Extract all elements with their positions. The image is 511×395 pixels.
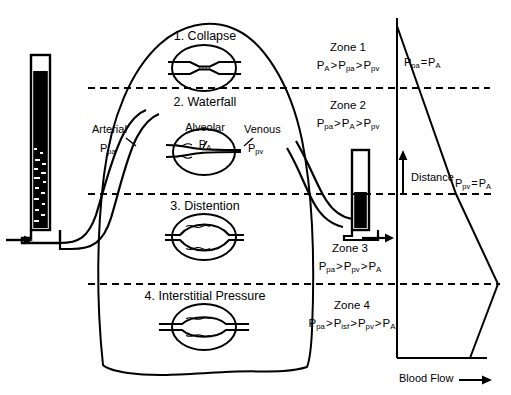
zone-divider-lines (88, 88, 500, 284)
z1-t2-sub: pv (371, 64, 379, 73)
z3-t1-sub: pv (351, 265, 359, 274)
top-marker-relation: = (420, 56, 428, 68)
venous-symbol: Ppv (248, 143, 263, 155)
z4-t2-sub: pv (366, 322, 374, 331)
mid-marker-relation: = (470, 177, 478, 189)
graph-mid-marker-label: Ppv=PA (455, 178, 491, 190)
section-title-distention: 3. Distention (170, 200, 239, 213)
venous-label: Venous (244, 124, 281, 135)
z1-t1-sub: pa (346, 64, 355, 73)
section-title-interstitial: 4. Interstitial Pressure (145, 290, 266, 303)
alveolar-label: Alveolar (185, 122, 225, 133)
z3-t2-sub: A (376, 265, 381, 274)
z3-t0-base: P (319, 260, 327, 272)
z4-gt1: > (349, 317, 358, 329)
zone-2-title: Zone 2 (330, 100, 366, 112)
z3-gt1: > (360, 260, 369, 272)
capillary-distention (165, 214, 244, 260)
z2-gt0: > (333, 117, 342, 129)
arterial-label: Arterial (92, 124, 127, 135)
z3-t1-base: P (344, 260, 352, 272)
z4-t2-base: P (358, 317, 366, 329)
diagram-canvas: 1. Collapse 2. Waterfall 3. Distention 4… (0, 0, 511, 395)
arterial-symbol: Ppa (100, 143, 116, 155)
zone-2-equation: Ppa>PA>Ppv (317, 118, 380, 131)
z4-gt0: > (325, 317, 334, 329)
blood-flow-axis-label: Blood Flow (399, 373, 453, 384)
venous-reservoir (344, 150, 378, 240)
distance-axis-label: Distance (411, 172, 454, 183)
arterial-symbol-sub: pa (107, 147, 115, 156)
top-marker-right-sub: A (435, 61, 440, 70)
mid-marker-right-base: P (479, 177, 486, 189)
z1-gt0: > (330, 59, 339, 71)
venous-symbol-sub: pv (255, 147, 263, 156)
capillary-collapse (168, 45, 241, 91)
section-title-collapse: 1. Collapse (174, 30, 237, 43)
z2-t2-sub: pv (371, 122, 379, 131)
z4-t3-sub: A (390, 322, 395, 331)
top-marker-left-sub: pa (411, 61, 419, 70)
z4-t1-base: P (334, 317, 342, 329)
z2-t0-base: P (317, 117, 325, 129)
z1-gt1: > (355, 59, 364, 71)
graph-top-marker-label: Ppa=PA (404, 57, 440, 69)
arterial-reservoir (22, 55, 60, 243)
zone-4-equation: Ppa>Pisf>Ppv>PA (309, 318, 396, 331)
venous-tubing (287, 141, 352, 227)
distance-axis-arrow (399, 150, 408, 195)
blood-flow-axis-arrow (459, 376, 492, 385)
zone-3-equation: Ppa>Ppv>PA (319, 261, 382, 274)
z4-t1-sub: isf (341, 322, 349, 331)
blood-flow-curve (397, 26, 498, 358)
alveolar-symbol-sub: A (206, 143, 211, 152)
zone-1-title: Zone 1 (330, 42, 366, 54)
capillary-interstitial (159, 304, 249, 350)
z1-t0-base: P (317, 59, 325, 71)
z4-t0-base: P (309, 317, 317, 329)
section-title-waterfall: 2. Waterfall (174, 96, 237, 109)
z2-t1-base: P (342, 117, 350, 129)
z2-gt1: > (355, 117, 364, 129)
z4-gt2: > (374, 317, 383, 329)
zone-4-title: Zone 4 (334, 300, 370, 312)
alveolar-symbol: PA (199, 139, 211, 151)
z4-t3-base: P (383, 317, 391, 329)
capillary-waterfall (166, 129, 241, 175)
zone-1-equation: PA>Ppa>Ppv (317, 60, 380, 73)
mid-marker-right-sub: A (486, 182, 491, 191)
zone-3-title: Zone 3 (332, 243, 368, 255)
z3-gt0: > (335, 260, 344, 272)
